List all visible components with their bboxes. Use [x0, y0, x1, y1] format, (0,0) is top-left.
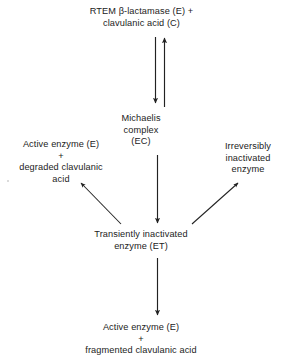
node-irreversible-line-1: Irreversibly — [214, 141, 282, 153]
node-irreversible-line-3: enzyme — [214, 164, 282, 176]
node-active-degraded-line-1: Active enzyme (E) — [2, 139, 120, 151]
node-irreversibly-inactivated-enzyme: Irreversibly inactivated enzyme — [214, 141, 282, 176]
node-substrate: RTEM β-lactamase (E) + clavulanic acid (… — [0, 6, 283, 29]
node-transient-line-2: enzyme (ET) — [61, 241, 221, 253]
node-substrate-line-2: clavulanic acid (C) — [0, 18, 283, 30]
arrow-transient-to-irreversible — [192, 183, 238, 224]
node-active-fragmented-plus: + — [41, 334, 241, 346]
node-active-enzyme-degraded-clavulanic-acid: Active enzyme (E) + degraded clavulanic … — [2, 139, 120, 185]
node-active-degraded-plus: + — [2, 151, 120, 163]
node-michaelis-line-1: Michaelis — [96, 113, 186, 125]
reaction-scheme-diagram: RTEM β-lactamase (E) + clavulanic acid (… — [0, 0, 283, 363]
node-substrate-line-1: RTEM β-lactamase (E) + — [0, 6, 283, 18]
node-active-fragmented-line-1: Active enzyme (E) — [41, 322, 241, 334]
node-active-enzyme-fragmented-clavulanic-acid: Active enzyme (E) + fragmented clavulani… — [41, 322, 241, 357]
node-michaelis-line-2: complex — [96, 125, 186, 137]
scan-artifact-dot — [7, 180, 9, 182]
node-active-fragmented-line-2: fragmented clavulanic acid — [41, 345, 241, 357]
node-irreversible-line-2: inactivated — [214, 153, 282, 165]
arrow-transient-to-active-degraded — [81, 183, 121, 224]
node-transient-line-1: Transiently inactivated — [61, 229, 221, 241]
node-active-degraded-line-2: degraded clavulanic — [2, 162, 120, 174]
node-transiently-inactivated-enzyme: Transiently inactivated enzyme (ET) — [61, 229, 221, 252]
node-active-degraded-line-3: acid — [2, 174, 120, 186]
